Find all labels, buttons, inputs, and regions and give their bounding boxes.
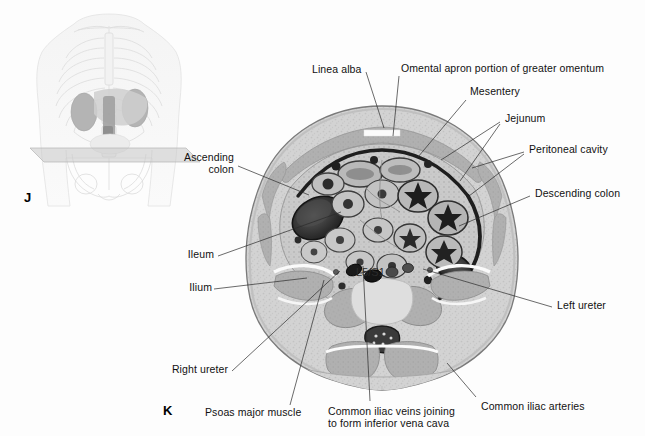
label-ileum: Ileum — [148, 249, 214, 261]
label-iliac-arteries: Common iliac arteries — [481, 401, 585, 413]
l5-s1-label: L5/S1 — [356, 266, 385, 278]
panel-letter-k: K — [163, 403, 172, 418]
left-ureter-structure — [427, 267, 432, 272]
axial-section-svg — [232, 100, 532, 400]
label-jejunum: Jejunum — [505, 113, 545, 125]
linea-alba-structure — [364, 130, 400, 136]
label-left-ureter: Left ureter — [557, 300, 606, 312]
l5-s1-vertebral-body — [351, 279, 413, 325]
panel-letter-j: J — [24, 190, 31, 205]
label-ascending-colon-line2: colon — [208, 163, 234, 175]
label-peritoneal-cavity: Peritoneal cavity — [529, 144, 608, 156]
label-ascending-colon-line1: Ascending — [184, 151, 234, 163]
label-ascending-colon: Ascendingcolon — [148, 152, 234, 175]
label-iliac-veins: Common iliac veins joiningto form inferi… — [328, 406, 455, 429]
label-iliac-veins-line1: Common iliac veins joining — [328, 405, 455, 417]
label-mesentery: Mesentery — [470, 86, 520, 98]
label-linea-alba: Linea alba — [312, 64, 361, 76]
figure-page: J — [0, 0, 645, 436]
right-ureter-structure — [333, 269, 338, 274]
label-psoas-major: Psoas major muscle — [205, 407, 301, 419]
label-descending-colon: Descending colon — [535, 188, 620, 200]
label-ilium: Ilium — [148, 282, 212, 294]
orientation-svg — [14, 8, 204, 213]
label-omental-apron: Omental apron portion of greater omentum — [401, 63, 604, 75]
label-right-ureter: Right ureter — [150, 364, 228, 376]
common-iliac-artery-left-structure — [386, 267, 398, 277]
common-iliac-artery-right-structure — [403, 264, 414, 273]
orientation-thumbnail — [14, 8, 204, 213]
label-iliac-veins-line2: to form inferior vena cava — [328, 417, 449, 429]
axial-section-image: L5/S1 — [232, 100, 532, 400]
